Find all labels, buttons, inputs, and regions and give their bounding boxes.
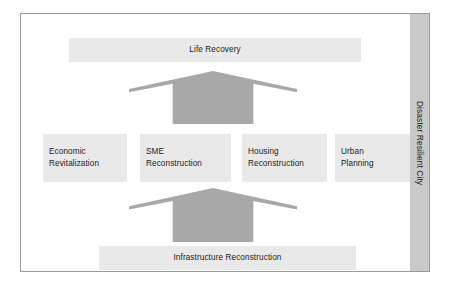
infrastructure-reconstruction-box: Infrastructure Reconstruction xyxy=(99,246,356,270)
pillar-line-2: Reconstruction xyxy=(146,158,202,171)
pillar-housing-reconstruction: Housing Reconstruction xyxy=(242,134,327,182)
upward-arrow-to-life-recovery-icon xyxy=(129,71,297,124)
life-recovery-label: Life Recovery xyxy=(189,44,240,57)
upward-arrow-from-infrastructure-icon xyxy=(129,188,297,242)
pillar-line-2: Reconstruction xyxy=(248,158,304,171)
pillar-line-1: Urban xyxy=(341,146,364,159)
arrow-head-shape xyxy=(129,188,297,242)
pillar-line-2: Planning xyxy=(341,158,374,171)
disaster-resilient-city-band: Disaster Resilient City xyxy=(410,14,429,271)
pillar-line-1: SME xyxy=(146,146,164,159)
diagram-frame: Life Recovery Economic Revitalization SM… xyxy=(20,13,430,272)
pillar-sme-reconstruction: SME Reconstruction xyxy=(140,134,231,182)
infrastructure-reconstruction-label: Infrastructure Reconstruction xyxy=(173,252,281,265)
pillar-urban-planning: Urban Planning xyxy=(335,134,421,182)
pillar-line-2: Revitalization xyxy=(49,158,99,171)
arrow-head-shape xyxy=(129,71,297,124)
pillar-economic-revitalization: Economic Revitalization xyxy=(43,134,127,182)
pillar-line-1: Housing xyxy=(248,146,279,159)
pillar-line-1: Economic xyxy=(49,146,86,159)
disaster-resilient-city-label: Disaster Resilient City xyxy=(415,100,425,184)
life-recovery-box: Life Recovery xyxy=(69,38,361,62)
diagram-canvas: Life Recovery Economic Revitalization SM… xyxy=(0,0,453,284)
